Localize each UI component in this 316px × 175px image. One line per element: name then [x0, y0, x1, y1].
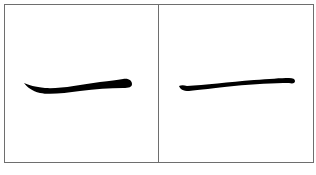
panel-right — [159, 5, 313, 162]
comparison-frame — [4, 4, 314, 163]
caption-left — [4, 164, 157, 174]
stroke-path — [179, 78, 295, 91]
stroke-path — [24, 79, 132, 94]
caption-right — [158, 164, 312, 174]
panel-left — [5, 5, 158, 162]
thin-horizontal-stroke-icon — [159, 5, 313, 162]
bold-horizontal-stroke-icon — [5, 5, 158, 162]
